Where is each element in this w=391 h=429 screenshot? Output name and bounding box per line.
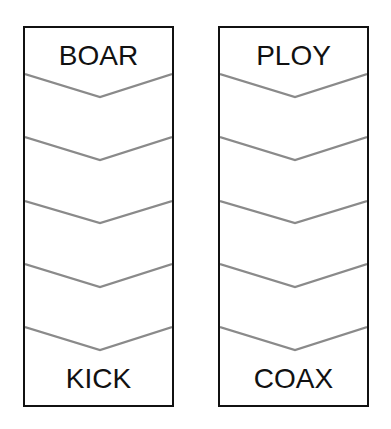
- end-word: KICK: [25, 365, 172, 393]
- blank-rung-1[interactable]: [25, 103, 172, 153]
- start-word: BOAR: [25, 42, 172, 70]
- blank-rung-3[interactable]: [25, 230, 172, 280]
- chevron-dividers: [220, 28, 367, 405]
- blank-rung-4[interactable]: [25, 293, 172, 343]
- blank-rung-1[interactable]: [220, 103, 367, 153]
- start-word: PLOY: [220, 42, 367, 70]
- blank-rung-2[interactable]: [220, 166, 367, 216]
- blank-rung-3[interactable]: [220, 230, 367, 280]
- blank-rung-2[interactable]: [25, 166, 172, 216]
- word-ladder-right: PLOY COAX: [218, 26, 369, 407]
- end-word: COAX: [220, 365, 367, 393]
- word-ladder-left: BOAR KICK: [23, 26, 174, 407]
- chevron-dividers: [25, 28, 172, 405]
- blank-rung-4[interactable]: [220, 293, 367, 343]
